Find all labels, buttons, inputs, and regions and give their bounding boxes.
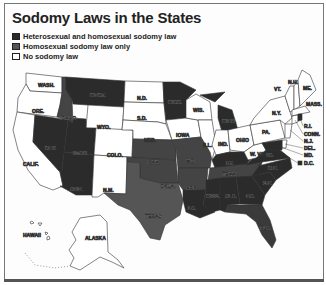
label-del: DEL. [304, 145, 316, 151]
label-pa: PA. [262, 129, 271, 135]
label-kan: KAN. [148, 159, 161, 165]
label-wyo: WYO. [97, 124, 111, 130]
label-wis: WIS. [193, 107, 204, 113]
label-miss: MISS. [206, 193, 220, 199]
label-mo: MO. [186, 158, 196, 164]
label-colo: COLO. [107, 152, 123, 158]
label-ark: ARK. [186, 185, 199, 191]
label-iowa: IOWA [176, 132, 190, 138]
label-calif: CALIF. [23, 161, 39, 167]
label-conn: CONN. [304, 131, 321, 137]
label-wva: W. VA. [250, 151, 266, 157]
us-map: WASH. ORE. CALIF. NEV. IDAHO MONT. WYO. … [0, 0, 326, 285]
label-ind: IND. [218, 141, 229, 147]
label-nev: NEV. [45, 145, 57, 151]
label-vt: VT. [274, 86, 282, 92]
label-mont: MONT. [90, 92, 106, 98]
alaska-islands [25, 253, 70, 268]
state-ri [298, 114, 302, 121]
label-md: MD. [304, 152, 314, 158]
dc-swatch-icon [298, 161, 302, 165]
label-minn: MINN. [168, 99, 183, 105]
label-ore: ORE. [32, 108, 45, 114]
label-utah: UTAH [73, 150, 87, 156]
label-nm: N.M. [103, 187, 114, 193]
state-conn [292, 115, 298, 124]
state-alaska [69, 215, 124, 270]
label-ariz: ARIZ. [70, 186, 84, 192]
state-ny [250, 96, 292, 125]
label-ri: R.I. [304, 123, 312, 129]
label-ny: N.Y. [272, 110, 282, 116]
label-alaska: ALASKA [85, 235, 106, 241]
label-nh: N.H. [288, 79, 299, 85]
label-va: VA. [266, 152, 275, 158]
label-ill: ILL. [203, 142, 212, 148]
label-dc: D.C. [304, 160, 315, 166]
label-ala: ALA. [225, 193, 237, 199]
label-tenn: TENN. [222, 171, 238, 177]
label-wash: WASH. [38, 82, 55, 88]
label-sc: S.C. [263, 180, 273, 186]
label-hawaii: HAWAII [23, 232, 41, 238]
label-nc: N.C. [268, 165, 279, 171]
label-nd: N.D. [137, 95, 148, 101]
label-me: ME. [303, 85, 313, 91]
label-texas: TEXAS [145, 213, 162, 219]
label-fla: FLA. [260, 225, 272, 231]
state-del [282, 140, 287, 148]
label-la: LA. [188, 205, 197, 211]
label-nj: N.J. [304, 138, 314, 144]
label-sd: S.D. [137, 115, 147, 121]
label-okla: OKLA. [160, 183, 176, 189]
label-ga: GA. [246, 193, 256, 199]
label-neb: NEB. [144, 137, 157, 143]
label-ohio: OHIO [236, 137, 249, 143]
label-ky: KY. [226, 160, 234, 166]
label-idaho: IDAHO [60, 115, 76, 121]
label-mich: MICH. [222, 118, 237, 124]
label-mass: MASS. [306, 101, 322, 107]
